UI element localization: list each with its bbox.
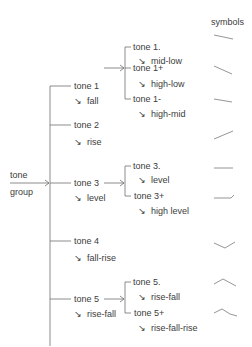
tone-4-label: tone 4 xyxy=(74,236,99,246)
symbol-fall-mid-low-icon xyxy=(214,35,233,39)
tone-4-contour: ↘ fall-rise xyxy=(74,253,116,263)
root-label-tone: tone xyxy=(10,170,28,180)
arrow-down-right-icon: ↘ xyxy=(74,193,82,203)
tone-3-plus-label: tone 3+ xyxy=(134,191,164,201)
arrow-down-right-icon: ↘ xyxy=(138,175,146,185)
tone-3-plus-contour: ↘ high level xyxy=(138,206,189,216)
tone-5-label: tone 5 xyxy=(74,294,99,304)
symbol-rise-fall-rise-icon xyxy=(214,309,237,316)
tone-5-plus-label: tone 5+ xyxy=(134,308,164,318)
arrow-down-right-icon: ↘ xyxy=(74,96,82,106)
tone-1-dot-label: tone 1. xyxy=(133,42,161,52)
symbol-fall-high-low-icon xyxy=(214,66,232,74)
tone-2-label: tone 2 xyxy=(74,120,99,130)
root-label-group: group xyxy=(10,187,33,197)
symbols-header: symbols xyxy=(211,17,244,27)
tone-1-plus-label: tone 1+ xyxy=(133,63,163,73)
arrow-down-right-icon: ↘ xyxy=(138,292,146,302)
tone-3-contour: ↘ level xyxy=(74,193,106,203)
tree-connectors xyxy=(0,0,252,347)
symbol-level-high-icon xyxy=(214,195,234,198)
tone-5-contour: ↘ rise-fall xyxy=(74,309,116,319)
symbol-rise-fall-icon xyxy=(214,279,236,286)
symbol-rise-icon xyxy=(214,131,233,139)
tone-1-contour: ↘ fall xyxy=(74,96,99,106)
arrow-down-right-icon: ↘ xyxy=(74,253,82,263)
arrow-down-right-icon: ↘ xyxy=(74,137,82,147)
tone-1-minus-contour: ↘ high-mid xyxy=(138,109,186,119)
arrow-down-right-icon: ↘ xyxy=(138,323,146,333)
tone-1-minus-label: tone 1- xyxy=(133,94,161,104)
symbol-fall-high-mid-icon xyxy=(214,99,232,102)
tone-5-dot-label: tone 5. xyxy=(133,277,161,287)
arrow-down-right-icon: ↘ xyxy=(74,309,82,319)
tone-3-dot-contour: ↘ level xyxy=(138,175,170,185)
arrow-down-right-icon: ↘ xyxy=(138,79,146,89)
tone-1-label: tone 1 xyxy=(74,81,99,91)
tone-3-dot-label: tone 3. xyxy=(133,161,161,171)
arrow-down-right-icon: ↘ xyxy=(138,109,146,119)
symbol-fall-rise-icon xyxy=(214,242,235,248)
tone-5-plus-contour: ↘ rise-fall-rise xyxy=(138,323,198,333)
tone-2-contour: ↘ rise xyxy=(74,137,102,147)
tone-3-label: tone 3 xyxy=(74,178,99,188)
tone-5-dot-contour: ↘ rise-fall xyxy=(138,292,180,302)
tone-1-plus-contour: ↘ high-low xyxy=(138,79,185,89)
arrow-down-right-icon: ↘ xyxy=(138,206,146,216)
